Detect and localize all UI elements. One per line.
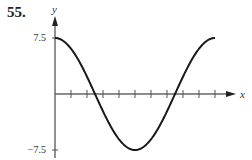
y-axis-arrow-icon <box>52 16 58 26</box>
x-axis-arrow-icon <box>226 91 236 97</box>
x-axis <box>55 91 236 97</box>
chart: 7.5 −7.5 y x <box>0 0 252 160</box>
y-tick-label-max: 7.5 <box>34 32 47 43</box>
y-axis-label: y <box>51 3 57 15</box>
x-axis-label: x <box>239 88 245 100</box>
y-tick-label-min: −7.5 <box>28 144 46 155</box>
